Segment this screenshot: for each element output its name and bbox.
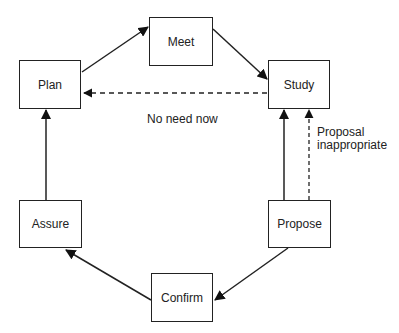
edge-label-no-need-now: No need now: [147, 113, 218, 126]
node-study-label: Study: [284, 78, 315, 92]
node-plan: Plan: [19, 60, 81, 109]
node-confirm: Confirm: [151, 273, 213, 322]
node-propose-label: Propose: [277, 217, 322, 231]
node-meet-label: Meet: [168, 35, 195, 49]
node-assure: Assure: [19, 200, 82, 248]
edge-propose-to-confirm: [215, 248, 288, 300]
edge-confirm-to-assure: [66, 250, 151, 300]
node-plan-label: Plan: [38, 78, 62, 92]
edge-label-proposal-line2: inappropriate: [317, 139, 387, 152]
node-confirm-label: Confirm: [161, 291, 203, 305]
node-propose: Propose: [268, 200, 331, 248]
node-meet: Meet: [149, 17, 213, 66]
edge-meet-to-study: [213, 29, 267, 79]
node-assure-label: Assure: [32, 217, 69, 231]
edge-plan-to-meet: [82, 27, 148, 72]
node-study: Study: [268, 60, 330, 109]
